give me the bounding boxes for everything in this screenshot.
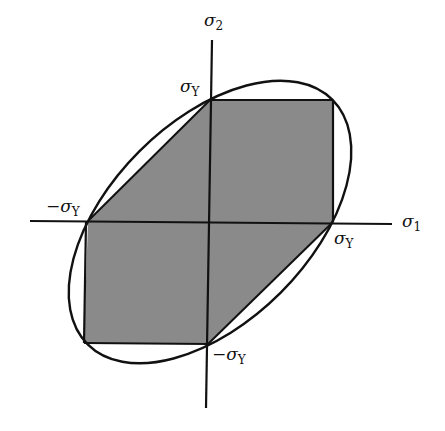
subscript: Y <box>346 237 354 251</box>
sigma1-axis-label: σ1 <box>402 213 421 230</box>
subscript: Y <box>238 353 246 367</box>
sign: − <box>212 344 226 364</box>
yield-surface-diagram: σ2 σ1 σY σY −σY −σY <box>0 0 445 431</box>
sigma1-axis <box>30 221 392 224</box>
subscript: 1 <box>414 220 422 234</box>
sigma-symbol: σ <box>226 344 238 364</box>
label-top-sigma-y: σY <box>180 78 200 95</box>
label-right-sigma-y: σY <box>334 230 354 247</box>
subscript: Y <box>72 205 80 219</box>
sign: − <box>46 196 60 216</box>
sigma-symbol: σ <box>180 76 192 96</box>
label-left-neg-sigma-y: −σY <box>46 198 80 215</box>
subscript: Y <box>192 85 200 99</box>
hexagon-bottom-edge <box>84 343 208 344</box>
subscript: 2 <box>216 19 224 33</box>
sigma-symbol: σ <box>60 196 72 216</box>
sigma-symbol: σ <box>334 228 346 248</box>
label-bottom-neg-sigma-y: −σY <box>212 346 246 363</box>
sigma-symbol: σ <box>402 211 414 231</box>
sigma-symbol: σ <box>204 10 216 30</box>
sigma2-axis-label: σ2 <box>204 12 223 29</box>
